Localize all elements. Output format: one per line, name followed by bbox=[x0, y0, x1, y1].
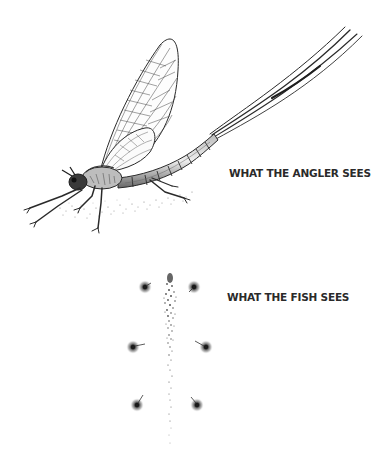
footprint-bottom-right bbox=[190, 397, 204, 412]
fish-view-caption: WHAT THE FISH SEES bbox=[227, 292, 349, 303]
body-imprint-stipple bbox=[163, 273, 176, 443]
mayfly-side-view bbox=[24, 27, 362, 233]
illustration-canvas bbox=[0, 0, 377, 461]
footprint-bottom-left bbox=[130, 395, 144, 412]
fish-view-imprint bbox=[126, 273, 213, 443]
tail-filaments bbox=[210, 27, 362, 139]
footprint-middle-left bbox=[126, 340, 145, 354]
footprint-top-left bbox=[138, 280, 152, 294]
shadow-stipple bbox=[59, 191, 192, 218]
head bbox=[62, 167, 87, 190]
footprint-top-right bbox=[187, 280, 201, 294]
angler-view-caption: WHAT THE ANGLER SEES bbox=[229, 168, 371, 179]
footprint-middle-right bbox=[195, 340, 213, 354]
mayfly-illustration: WHAT THE ANGLER SEES WHAT THE FISH SEES bbox=[0, 0, 377, 461]
